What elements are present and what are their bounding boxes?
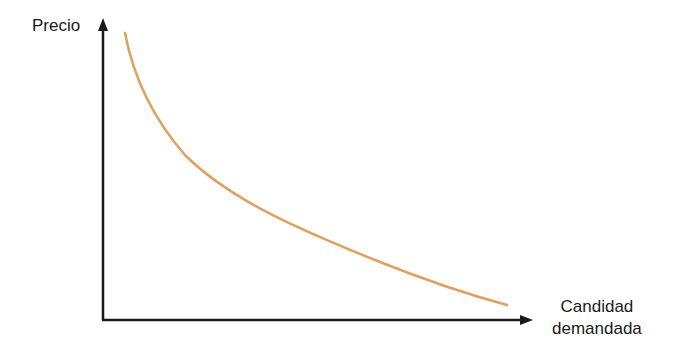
demand-curve bbox=[125, 33, 507, 305]
y-axis-label: Precio bbox=[32, 16, 80, 36]
y-axis-arrow-icon bbox=[98, 18, 108, 31]
x-axis-label: Candidad demandada bbox=[552, 296, 642, 340]
x-axis-label-line-1: Candidad bbox=[552, 296, 642, 318]
x-axis-arrow-icon bbox=[520, 315, 533, 325]
x-axis-label-line-2: demandada bbox=[552, 318, 642, 340]
